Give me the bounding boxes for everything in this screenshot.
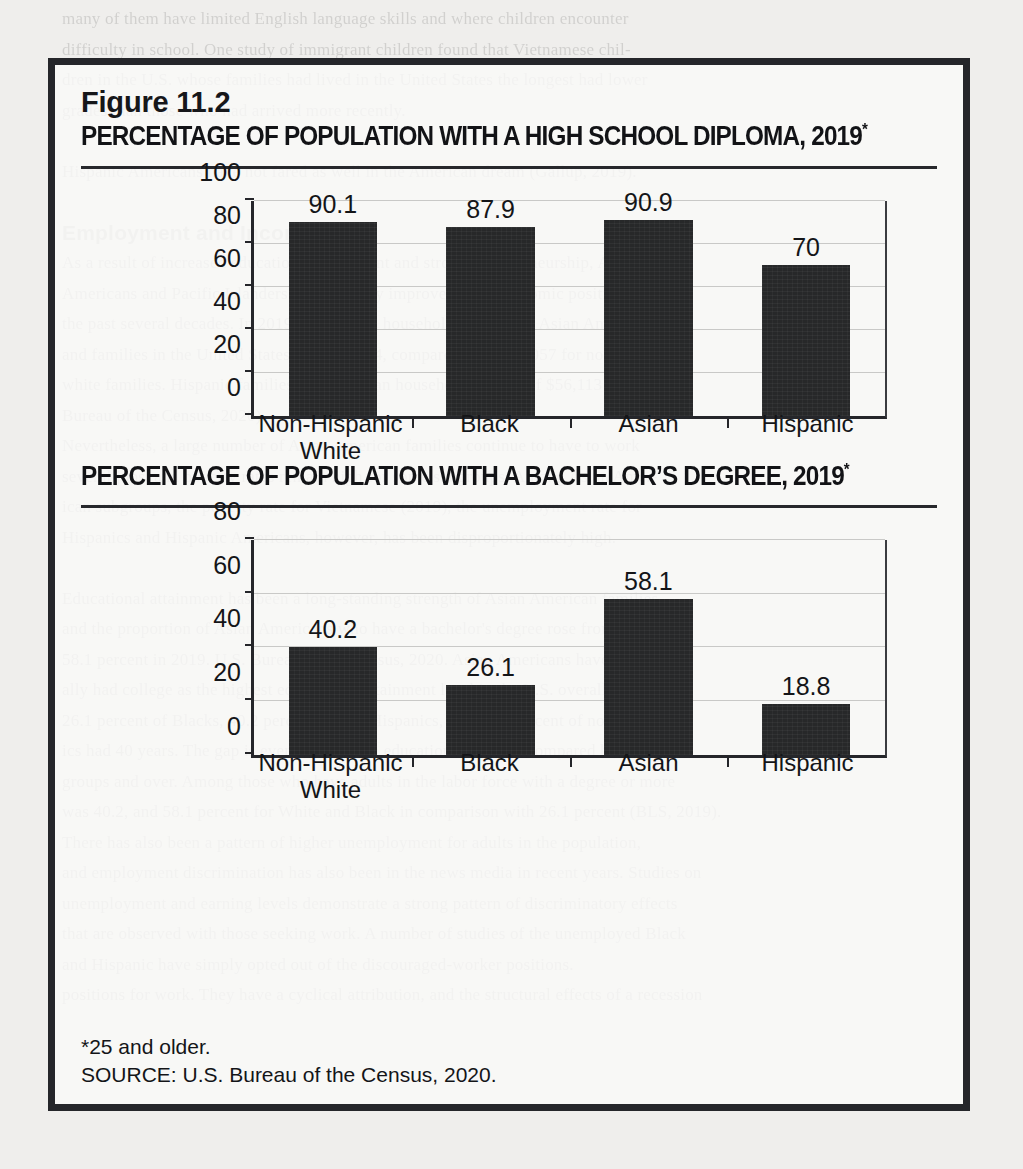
chart-2-ytick-mark	[245, 591, 254, 593]
chart-2: 02040608040.226.158.118.8Non-HispanicWhi…	[81, 518, 937, 800]
chart-2-ytick-mark	[245, 537, 254, 539]
chart-2-bar: 18.8	[762, 704, 850, 755]
chart-1-ytick-label: 0	[227, 372, 241, 401]
chart-1: 02040608010090.187.990.970Non-HispanicWh…	[81, 179, 937, 461]
chart-2-xlabel: Non-HispanicWhite	[251, 750, 410, 804]
figure-footnote: *25 and older. SOURCE: U.S. Bureau of th…	[81, 1033, 497, 1088]
chart-1-ytick-mark	[245, 284, 254, 286]
chart-1-title-asterisk: *	[862, 120, 867, 139]
chart-1-plot-wrap: 02040608010090.187.990.970	[251, 201, 887, 419]
chart-2-bar-slot: 40.2	[254, 540, 412, 755]
chart-1-ytick-mark	[245, 241, 254, 243]
chart-2-bar: 58.1	[604, 599, 692, 755]
chart-2-ytick-label: 40	[213, 604, 241, 633]
chart-1-bar-slot: 90.1	[254, 201, 412, 416]
chart-1-bar-value: 90.9	[624, 188, 673, 217]
chart-1-ytick-label: 40	[213, 286, 241, 315]
chart-2-title-asterisk: *	[844, 460, 849, 479]
chart-2-bar-value: 18.8	[782, 672, 831, 701]
chart-1-ytick-mark	[245, 198, 254, 200]
chart-2-ytick-mark	[245, 698, 254, 700]
chart-1-ytick-label: 60	[213, 243, 241, 272]
figure-number: Figure 11.2	[81, 87, 937, 118]
chart-1-bar: 70	[762, 265, 850, 416]
chart-2-bar-value: 58.1	[624, 567, 673, 596]
chart-2-bar: 40.2	[289, 647, 377, 755]
chart-1-bar-value: 70	[792, 233, 820, 262]
chart-2-block: 02040608040.226.158.118.8Non-HispanicWhi…	[81, 518, 937, 800]
chart-1-ytick-label: 80	[213, 200, 241, 229]
chart-2-bar: 26.1	[446, 685, 534, 755]
chart-1-xlabel: Hispanic	[728, 411, 887, 465]
chart-1-ytick-mark	[245, 327, 254, 329]
chart-1-bar-value: 87.9	[466, 195, 515, 224]
chart-2-title-text: PERCENTAGE OF POPULATION WITH A BACHELOR…	[81, 461, 844, 491]
chart-2-bar-slot: 18.8	[727, 540, 885, 755]
chart-1-xlabel: Black	[410, 411, 569, 465]
chart-1-block: 02040608010090.187.990.970Non-HispanicWh…	[81, 179, 937, 461]
chart-2-bar-value: 26.1	[466, 653, 515, 682]
chart-1-ytick-label: 20	[213, 329, 241, 358]
chart-1-bar-slot: 90.9	[570, 201, 728, 416]
chart-1-xlabels: Non-HispanicWhiteBlackAsianHispanic	[251, 411, 887, 465]
chart-2-bar-value: 40.2	[309, 615, 358, 644]
chart-1-bar: 87.9	[446, 227, 534, 416]
chart-1-bar-value: 90.1	[309, 190, 358, 219]
chart-1-xlabel: Non-HispanicWhite	[251, 411, 410, 465]
chart-2-xlabel: Hispanic	[728, 750, 887, 804]
chart-2-bars: 40.226.158.118.8	[254, 540, 885, 755]
chart-2-ytick-label: 80	[213, 496, 241, 525]
chart-2-ytick-label: 0	[227, 711, 241, 740]
chart-2-xlabel: Asian	[569, 750, 728, 804]
figure-box: Figure 11.2 PERCENTAGE OF POPULATION WIT…	[48, 58, 970, 1111]
chart-1-ytick-mark	[245, 370, 254, 372]
chart-2-title: PERCENTAGE OF POPULATION WITH A BACHELOR…	[81, 461, 851, 492]
chart-1-plot-area: 02040608010090.187.990.970	[251, 201, 887, 419]
chart-2-xlabel: Black	[410, 750, 569, 804]
chart-2-ytick-label: 20	[213, 658, 241, 687]
chart-1-title: PERCENTAGE OF POPULATION WITH A HIGH SCH…	[81, 121, 851, 152]
chart-2-bar-slot: 26.1	[412, 540, 570, 755]
title-rule-2	[81, 505, 937, 508]
chart-2-ytick-mark	[245, 644, 254, 646]
chart-1-bar: 90.1	[289, 222, 377, 416]
chart-1-bar-slot: 87.9	[412, 201, 570, 416]
chart-1-ytick-label: 100	[199, 157, 241, 186]
chart-1-xlabel: Asian	[569, 411, 728, 465]
footnote-age-note: *25 and older.	[81, 1033, 497, 1060]
chart-2-ytick-label: 60	[213, 550, 241, 579]
chart-2-plot-wrap: 02040608040.226.158.118.8	[251, 540, 887, 758]
chart-1-title-text: PERCENTAGE OF POPULATION WITH A HIGH SCH…	[81, 121, 862, 151]
chart-2-plot-area: 02040608040.226.158.118.8	[251, 540, 887, 758]
footnote-source: SOURCE: U.S. Bureau of the Census, 2020.	[81, 1061, 497, 1088]
chart-1-bar: 90.9	[604, 220, 692, 415]
figure-inner: Figure 11.2 PERCENTAGE OF POPULATION WIT…	[55, 65, 963, 1104]
chart-2-xlabels: Non-HispanicWhiteBlackAsianHispanic	[251, 750, 887, 804]
chart-2-bar-slot: 58.1	[570, 540, 728, 755]
chart-1-bars: 90.187.990.970	[254, 201, 885, 416]
chart-1-bar-slot: 70	[727, 201, 885, 416]
